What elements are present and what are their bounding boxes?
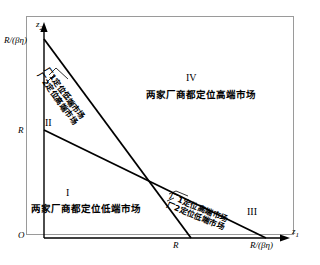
- y-axis-label: z2: [36, 20, 43, 32]
- region-numeral-i: I: [66, 188, 69, 198]
- x-axis-label: z1: [292, 227, 299, 239]
- boundary-line-shallow: [44, 130, 266, 238]
- origin-label: O: [18, 231, 25, 240]
- region-numeral-iv: IV: [186, 73, 197, 83]
- region-caption-i: 两家厂商都定位低端市场: [31, 204, 141, 214]
- region-caption-iv: 两家厂商都定位高端市场: [146, 90, 256, 100]
- x-tick-label-right: R/(βη): [250, 241, 273, 250]
- plot-drawing: [0, 0, 320, 265]
- region-numeral-iii: III: [247, 207, 257, 217]
- y-tick-label-mid: R: [18, 126, 24, 135]
- region-numeral-ii: II: [45, 118, 52, 128]
- x-tick-label-mid: R: [173, 241, 179, 250]
- figure-canvas: z2 z1 R/(βη) R O R R/(βη) I II III IV 两家…: [0, 0, 320, 265]
- y-tick-label-top: R/(βη): [4, 36, 27, 45]
